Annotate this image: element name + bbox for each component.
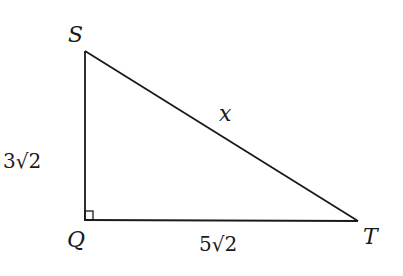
triangle-diagram: S Q T 3√2 5√2 x (0, 0, 403, 276)
vertex-label-s: S (68, 22, 83, 47)
side-st (85, 51, 358, 221)
vertex-label-t: T (363, 224, 380, 249)
side-label-st: x (219, 101, 232, 126)
vertex-label-q: Q (67, 227, 85, 252)
right-angle-marker (85, 211, 93, 220)
side-label-sq: 3√2 (3, 149, 41, 173)
side-label-qt: 5√2 (199, 232, 237, 256)
side-qt (84, 220, 358, 221)
